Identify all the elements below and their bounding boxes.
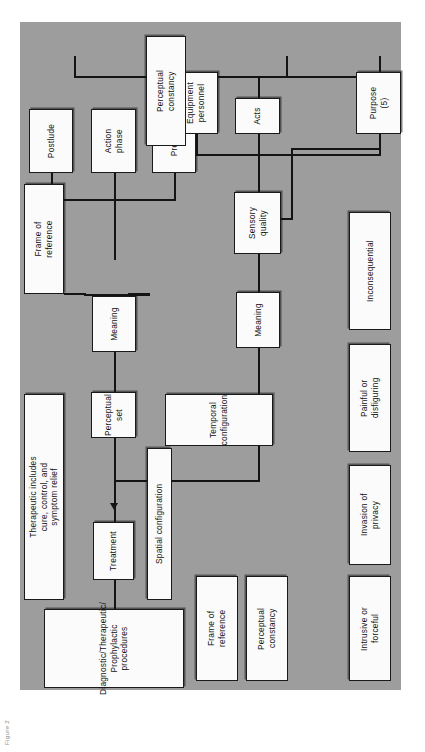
- edge-bottom-pair-stem: [291, 148, 293, 220]
- node-purpose[interactable]: Purpose (5): [356, 72, 401, 134]
- node-frame-of-reference-top[interactable]: Frame of reference: [24, 184, 64, 294]
- node-perceptual-constancy-top-overlay[interactable]: Perceptual constancy: [146, 36, 186, 146]
- node-action-phase[interactable]: Action phase: [91, 109, 136, 173]
- edge-treatment-trunk: [114, 480, 116, 522]
- node-acts[interactable]: Acts: [235, 98, 280, 134]
- edge-bottom-pair-bus: [292, 148, 381, 150]
- node-painful-or-disfiguring-overlay[interactable]: Painful or disfiguring: [349, 344, 391, 452]
- edge-bus-to-prelude: [174, 173, 176, 201]
- edge-bus-to-actionphase: [114, 173, 116, 201]
- edge-acts-out: [258, 76, 260, 98]
- node-meaning-temporal[interactable]: Meaning: [92, 296, 136, 352]
- figure-caption: Figure 2: [3, 685, 10, 745]
- node-perceptual-constancy-bottom-overlay[interactable]: Perceptual constancy: [246, 576, 288, 681]
- node-spatial-configuration-overlay[interactable]: Spatial configuration: [147, 448, 172, 600]
- node-procedures[interactable]: Diagnostic/Therapeutic/ Prophylactic pro…: [44, 609, 184, 688]
- node-treatment[interactable]: Treatment: [93, 522, 134, 580]
- node-intrusive-or-forceful-overlay[interactable]: Intrusive or forceful: [349, 576, 391, 681]
- edge-treatment-to-spatial: [258, 444, 260, 482]
- node-meaning-spatial[interactable]: Meaning: [236, 292, 280, 348]
- edge-bus-to-invasion: [286, 56, 288, 78]
- edge-bus-to-acts: [258, 134, 260, 156]
- edge-outcomes-bus: [74, 76, 380, 78]
- node-invasion-of-privacy-overlay[interactable]: Invasion of privacy: [349, 465, 391, 565]
- edge-bus-to-equipment: [196, 134, 198, 156]
- edge-temporal-to-meaning: [114, 352, 116, 394]
- node-perceptual-set[interactable]: Perceptual set: [91, 392, 136, 438]
- edge-meaningbottom-to-sensory: [258, 254, 260, 292]
- edge-meaning-top-stem: [114, 200, 116, 260]
- edge-treatment-split-vertical: [114, 480, 260, 482]
- node-sensory-quality[interactable]: Sensory quality: [234, 192, 281, 254]
- edge-frameref-top-stub: [64, 293, 86, 295]
- node-inconsequential-overlay[interactable]: Inconsequential: [349, 212, 391, 330]
- figure-page: Therapeutic includes cure, control, and …: [0, 0, 425, 752]
- edge-bus-to-purpose: [379, 134, 381, 156]
- node-therapeutic-note[interactable]: Therapeutic includes cure, control, and …: [24, 394, 64, 600]
- edge-bus-to-inconsequential: [74, 56, 76, 78]
- edge-acts-bus: [196, 154, 380, 156]
- node-temporal-configuration[interactable]: Temporal configuration: [165, 394, 273, 446]
- node-frame-of-reference-bottom-overlay[interactable]: Frame of reference: [196, 576, 238, 681]
- node-postlude[interactable]: Postlude: [29, 109, 73, 173]
- edge-treatment-to-temporal: [114, 446, 116, 482]
- edge-spatial-to-meaning-bottom: [258, 348, 260, 394]
- edge-perceptualset-arrowhead: [110, 503, 118, 510]
- edge-sensory-out: [258, 154, 260, 192]
